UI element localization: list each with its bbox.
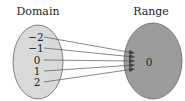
domain-value: 2 bbox=[34, 76, 41, 88]
range-title: Range bbox=[133, 5, 169, 18]
mapping-diagram: Domain Range −2 −1 0 1 2 0 bbox=[0, 0, 185, 101]
domain-title: Domain bbox=[16, 5, 59, 18]
domain-value: −1 bbox=[28, 42, 43, 54]
range-value: 0 bbox=[146, 56, 153, 68]
